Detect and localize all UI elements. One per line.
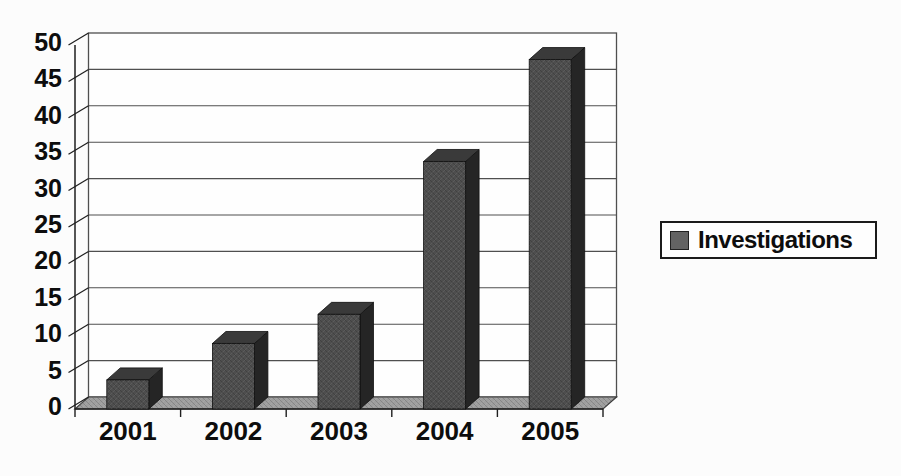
- y-tick-40: [69, 106, 89, 118]
- bar-texture-2003: [318, 314, 360, 409]
- x-axis-label-2004: 2004: [416, 416, 474, 446]
- legend-box: Investigations: [660, 221, 877, 259]
- bar-side-2003: [360, 302, 374, 409]
- y-axis-label-20: 20: [34, 246, 62, 274]
- y-tick-10: [69, 324, 89, 336]
- y-axis-label-0: 0: [48, 392, 62, 420]
- y-axis-label-40: 40: [34, 101, 62, 129]
- y-axis-label-45: 45: [34, 64, 62, 92]
- chart-page: 0510152025303540455020012002200320042005…: [0, 0, 901, 476]
- y-tick-15: [69, 288, 89, 300]
- y-tick-5: [69, 361, 89, 373]
- y-tick-35: [69, 142, 89, 154]
- bar-side-2005: [571, 48, 585, 409]
- bar-side-2004: [466, 149, 480, 409]
- x-axis-label-2001: 2001: [99, 416, 157, 446]
- bar-texture-2002: [212, 343, 254, 409]
- y-axis-label-15: 15: [34, 283, 62, 311]
- x-axis-label-2002: 2002: [204, 416, 262, 446]
- bar-texture-2001: [107, 380, 149, 409]
- y-tick-20: [69, 251, 89, 263]
- y-axis-label-35: 35: [34, 137, 62, 165]
- bar-side-2002: [254, 331, 268, 409]
- y-tick-50: [69, 33, 89, 45]
- y-axis-label-10: 10: [34, 319, 62, 347]
- y-tick-30: [69, 179, 89, 191]
- bar-texture-2004: [424, 161, 466, 409]
- y-axis-label-50: 50: [34, 28, 62, 56]
- x-axis-label-2003: 2003: [310, 416, 368, 446]
- y-axis-label-25: 25: [34, 210, 62, 238]
- legend-label: Investigations: [698, 226, 852, 254]
- bar-texture-2005: [529, 60, 571, 409]
- y-tick-25: [69, 215, 89, 227]
- y-axis-label-30: 30: [34, 174, 62, 202]
- legend-swatch-icon: [670, 231, 689, 250]
- y-axis-label-5: 5: [48, 356, 62, 384]
- y-tick-45: [69, 69, 89, 81]
- x-axis-label-2005: 2005: [521, 416, 579, 446]
